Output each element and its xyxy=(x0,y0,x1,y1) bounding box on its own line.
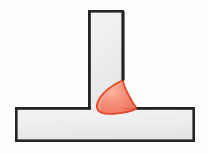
diagram-canvas: T-joint fillet weld cross-section xyxy=(0,0,208,154)
weld-joint-illustration xyxy=(0,0,208,154)
